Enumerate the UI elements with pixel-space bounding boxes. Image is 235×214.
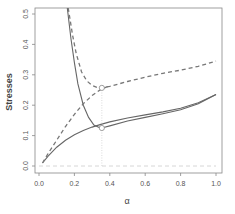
y-tick-label: 0.0 xyxy=(22,161,29,171)
x-tick-label: 0.8 xyxy=(176,180,186,187)
series-layer xyxy=(39,8,216,166)
series-dashed-decreasing xyxy=(68,8,216,88)
x-tick-label: 0.0 xyxy=(34,180,44,187)
y-tick-label: 0.2 xyxy=(22,100,29,110)
y-axis-title: Stresses xyxy=(4,73,14,111)
y-tick-label: 0.5 xyxy=(22,9,29,19)
x-tick-label: 0.2 xyxy=(70,180,80,187)
x-tick-label: 0.6 xyxy=(140,180,150,187)
minimum-circle-marker xyxy=(99,85,104,90)
annotation-layer xyxy=(99,85,104,166)
y-tick-label: 0.3 xyxy=(22,70,29,80)
plot-frame xyxy=(35,8,222,173)
series-solid-decreasing xyxy=(67,8,216,128)
x-tick-label: 1.0 xyxy=(211,180,221,187)
y-tick-label: 0.1 xyxy=(22,131,29,141)
x-axis: 0.00.20.40.60.81.0 xyxy=(34,173,221,187)
minimum-circle-marker xyxy=(99,125,104,130)
x-axis-title: α xyxy=(124,196,129,206)
y-tick-label: 0.4 xyxy=(22,39,29,49)
series-solid-increasing xyxy=(43,95,217,163)
y-axis: 0.00.10.20.30.40.5 xyxy=(22,9,35,171)
stress-chart: 0.00.10.20.30.40.5 0.00.20.40.60.81.0 St… xyxy=(0,0,235,214)
x-tick-label: 0.4 xyxy=(105,180,115,187)
